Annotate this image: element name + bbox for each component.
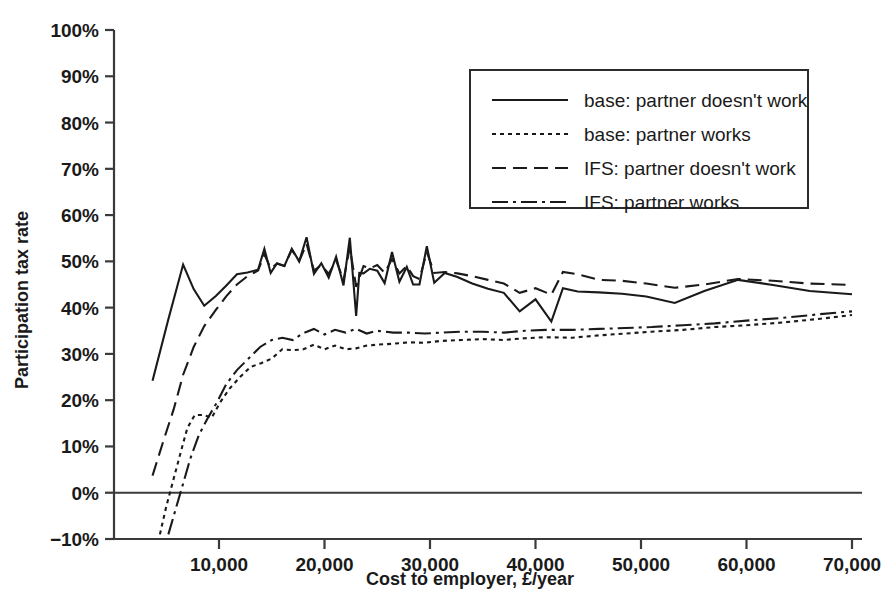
series-line-2	[153, 244, 852, 476]
x-axis-title: Cost to employer, £/year	[366, 569, 574, 589]
series-line-0	[153, 237, 852, 380]
y-tick-label: 40%	[61, 298, 99, 319]
y-tick-label: 90%	[61, 66, 99, 87]
legend-label-1: base: partner works	[584, 124, 751, 145]
legend-label-0: base: partner doesn't work	[584, 90, 808, 111]
y-axis-title: Participation tax rate	[12, 211, 32, 389]
y-tick-label: 0%	[72, 483, 100, 504]
series-line-3	[168, 311, 852, 534]
x-tick-label: 20,000	[295, 554, 353, 575]
y-axis-group: −10%0%10%20%30%40%50%60%70%80%90%100% Pa…	[12, 20, 114, 550]
y-tick-label: 10%	[61, 436, 99, 457]
y-tick-label: 70%	[61, 159, 99, 180]
x-axis-group: 10,00020,00030,00040,00050,00060,00070,0…	[114, 493, 881, 589]
x-tick-label: 10,000	[190, 554, 248, 575]
data-series-group	[153, 237, 852, 534]
y-tick-label: 60%	[61, 205, 99, 226]
x-axis-ticks	[219, 539, 852, 549]
y-tick-label: 50%	[61, 251, 99, 272]
series-line-1	[160, 315, 852, 534]
y-axis-tick-labels: −10%0%10%20%30%40%50%60%70%80%90%100%	[50, 20, 99, 550]
x-tick-label: 70,000	[823, 554, 881, 575]
legend: base: partner doesn't workbase: partner …	[470, 70, 808, 213]
x-tick-label: 60,000	[717, 554, 775, 575]
y-tick-label: 100%	[50, 20, 99, 41]
y-axis-ticks	[105, 30, 114, 539]
chart-container: −10%0%10%20%30%40%50%60%70%80%90%100% Pa…	[0, 0, 892, 605]
legend-label-2: IFS: partner doesn't work	[584, 158, 796, 179]
participation-tax-rate-chart: −10%0%10%20%30%40%50%60%70%80%90%100% Pa…	[0, 0, 892, 605]
legend-label-3: IFS: partner works	[584, 192, 739, 213]
y-tick-label: −10%	[50, 529, 99, 550]
x-tick-label: 50,000	[612, 554, 670, 575]
y-tick-label: 20%	[61, 390, 99, 411]
y-tick-label: 80%	[61, 113, 99, 134]
y-tick-label: 30%	[61, 344, 99, 365]
